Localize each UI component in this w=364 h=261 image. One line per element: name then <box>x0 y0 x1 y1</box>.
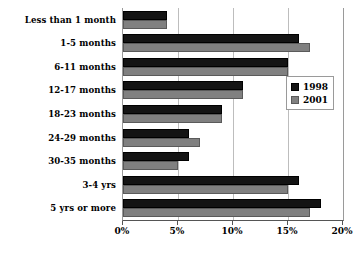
chart-legend: 1998 2001 <box>286 76 334 110</box>
legend-item-1998: 1998 <box>291 80 328 93</box>
axis-tick-label: 20% <box>331 226 352 236</box>
bars-layer <box>123 8 343 220</box>
axis-tick-mark <box>122 221 123 225</box>
bar-1998 <box>123 34 299 43</box>
bar-2001 <box>123 208 310 217</box>
legend-item-2001: 2001 <box>291 93 328 106</box>
legend-label: 1998 <box>303 82 328 92</box>
bar-group <box>123 197 343 221</box>
category-label: 12-17 months <box>0 79 120 103</box>
bar-2001 <box>123 67 288 76</box>
bar-2001 <box>123 20 167 29</box>
legend-swatch-icon <box>291 96 299 104</box>
axis-tick-label: 5% <box>170 226 185 236</box>
bar-group <box>123 32 343 56</box>
axis-tick-label: 0% <box>115 226 130 236</box>
bar-2001 <box>123 114 222 123</box>
bar-group <box>123 149 343 173</box>
bar-1998 <box>123 11 167 20</box>
axis-tick-mark <box>342 221 343 225</box>
bar-1998 <box>123 152 189 161</box>
bar-group <box>123 173 343 197</box>
axis-tick-mark <box>177 221 178 225</box>
bar-2001 <box>123 43 310 52</box>
category-label: 24-29 months <box>0 126 120 150</box>
category-label: Less than 1 month <box>0 8 120 32</box>
bar-1998 <box>123 129 189 138</box>
bar-2001 <box>123 161 178 170</box>
category-label: 1-5 months <box>0 32 120 56</box>
legend-swatch-icon <box>291 83 299 91</box>
category-label: 5 yrs or more <box>0 197 120 221</box>
category-label: 30-35 months <box>0 149 120 173</box>
bar-1998 <box>123 58 288 67</box>
bar-group <box>123 8 343 32</box>
bar-1998 <box>123 81 243 90</box>
value-axis: 0%5%10%15%20% <box>122 221 342 245</box>
bar-1998 <box>123 176 299 185</box>
bar-1998 <box>123 199 321 208</box>
category-label: 6-11 months <box>0 55 120 79</box>
bar-1998 <box>123 105 222 114</box>
axis-tick-mark <box>232 221 233 225</box>
category-label: 3-4 yrs <box>0 173 120 197</box>
axis-tick-mark <box>287 221 288 225</box>
axis-tick-label: 10% <box>221 226 242 236</box>
category-label: 18-23 months <box>0 102 120 126</box>
category-axis: Less than 1 month 1-5 months 6-11 months… <box>0 8 120 220</box>
plot-area <box>122 8 344 221</box>
bar-2001 <box>123 185 288 194</box>
bar-2001 <box>123 90 243 99</box>
legend-label: 2001 <box>303 95 328 105</box>
bar-group <box>123 126 343 150</box>
bar-chart: Less than 1 month 1-5 months 6-11 months… <box>0 0 364 261</box>
axis-tick-label: 15% <box>276 226 297 236</box>
bar-2001 <box>123 138 200 147</box>
